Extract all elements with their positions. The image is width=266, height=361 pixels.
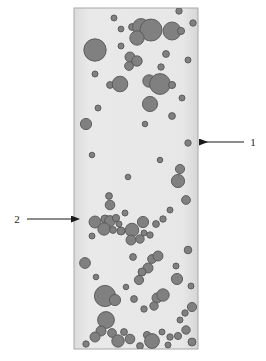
particle [126, 235, 136, 245]
annotation-label-2: 2 [14, 213, 20, 225]
particle [117, 227, 125, 235]
particle [89, 152, 95, 158]
particle [182, 196, 191, 205]
particle [137, 343, 144, 350]
particle [123, 284, 129, 290]
particle [109, 294, 120, 305]
particle [137, 216, 148, 227]
particle [185, 140, 191, 146]
particle [110, 227, 117, 234]
particle [167, 207, 173, 213]
particle [171, 174, 184, 187]
particle [175, 164, 184, 173]
particle [157, 289, 169, 301]
particle [84, 39, 106, 61]
particle [179, 95, 185, 101]
particle [187, 302, 196, 311]
particle [131, 296, 138, 303]
particle [190, 20, 196, 26]
particle [171, 273, 182, 284]
particle [141, 230, 147, 236]
particle [80, 258, 91, 269]
particle [83, 341, 89, 347]
particle [105, 200, 115, 210]
particle-distribution-figure: 12 [0, 0, 266, 361]
particle [142, 121, 148, 127]
particle [153, 221, 160, 228]
particle [134, 275, 143, 284]
particle [185, 57, 191, 63]
particle [150, 302, 158, 310]
particle [93, 274, 99, 280]
particle [95, 105, 101, 111]
particle [118, 26, 124, 32]
particle [130, 254, 137, 261]
figure-container: 12 [0, 0, 266, 361]
particle [112, 214, 119, 221]
particle [147, 232, 153, 238]
annotation-label-1: 1 [250, 136, 256, 148]
particle [92, 71, 98, 77]
particle [121, 329, 128, 336]
particle [188, 283, 194, 289]
particle [125, 174, 131, 180]
particle [168, 81, 175, 88]
particle [150, 74, 171, 95]
particle [167, 334, 173, 340]
particle [111, 15, 117, 21]
particle [138, 268, 146, 276]
particle [112, 76, 128, 92]
particle [153, 251, 163, 261]
particle [165, 342, 171, 348]
particle [184, 246, 192, 254]
particle [182, 326, 190, 334]
particle [182, 310, 188, 316]
particle [118, 43, 124, 49]
particle [145, 334, 160, 349]
particle [177, 317, 183, 323]
particle [98, 223, 110, 235]
particle [157, 157, 163, 163]
particle [158, 64, 164, 70]
particle [80, 118, 91, 129]
particle [174, 332, 181, 339]
particle [130, 31, 144, 45]
particle [125, 62, 134, 71]
particle [142, 96, 157, 111]
particle [112, 335, 124, 347]
particle [122, 210, 128, 216]
particle [89, 233, 95, 239]
particle [176, 8, 182, 14]
particle [177, 27, 184, 34]
particle [141, 306, 147, 312]
particle [160, 216, 166, 222]
particle [116, 221, 122, 227]
particle [90, 332, 100, 342]
particle [173, 263, 179, 269]
particle [125, 334, 135, 344]
particle [188, 338, 196, 346]
particle [159, 329, 165, 335]
particle [163, 51, 170, 58]
particle [169, 113, 176, 120]
particle [106, 193, 113, 200]
